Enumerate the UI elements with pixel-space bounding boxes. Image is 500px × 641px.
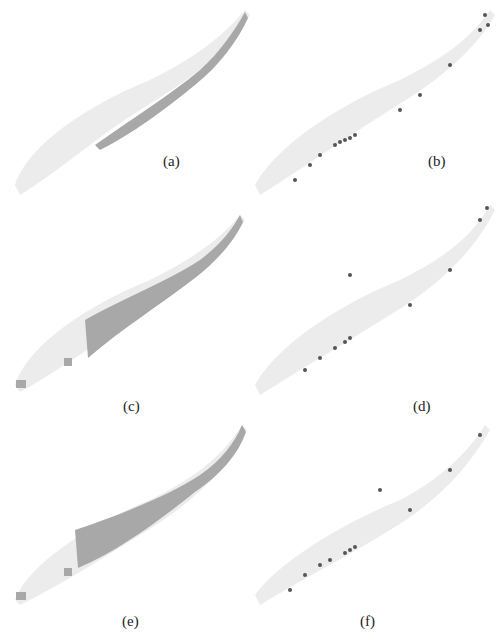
panel-label: (b) bbox=[428, 153, 446, 170]
panel-f-shape bbox=[250, 420, 500, 641]
panel-b: (b) bbox=[250, 0, 500, 200]
panel-a-shape bbox=[0, 0, 250, 200]
panel-a: (a) bbox=[0, 0, 250, 200]
panel-e-shape bbox=[0, 420, 250, 641]
panel-label: (f) bbox=[360, 613, 375, 630]
panel-b-shape bbox=[250, 0, 500, 200]
panel-d: (d) bbox=[250, 200, 500, 420]
panel-d-shape bbox=[250, 200, 500, 420]
panel-c: (c) bbox=[0, 200, 250, 420]
panel-label: (a) bbox=[163, 153, 180, 170]
panel-label: (c) bbox=[123, 398, 140, 415]
panel-f: (f) bbox=[250, 420, 500, 641]
panel-label: (d) bbox=[413, 398, 431, 415]
panel-label: (e) bbox=[122, 613, 139, 630]
panel-c-shape bbox=[0, 200, 250, 420]
panel-e: (e) bbox=[0, 420, 250, 641]
